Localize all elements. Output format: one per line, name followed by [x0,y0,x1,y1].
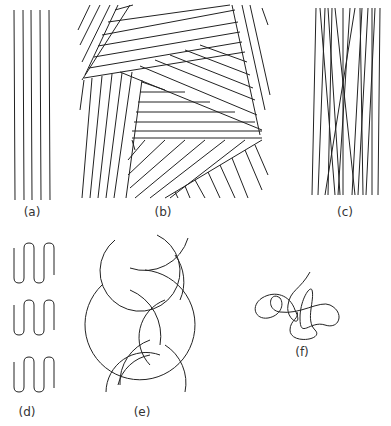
panel-c-label: (c) [337,205,353,219]
panel-d-label: (d) [19,405,36,419]
panel-c-crossing-chains [312,8,380,195]
panel-e-label: (e) [134,405,151,419]
figure-canvas [0,0,391,426]
panel-e-helical-arcs [85,235,195,392]
panel-f-label: (f) [295,345,309,359]
panel-a-parallel-chains [14,10,50,200]
panel-f-random-coil [255,272,339,339]
panel-b-lamellae [78,5,270,198]
panel-b-label: (b) [155,205,172,219]
panel-d-folded-chains [14,243,54,392]
panel-a-label: (a) [24,205,41,219]
